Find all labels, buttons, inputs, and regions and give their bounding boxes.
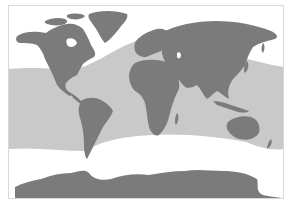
greenland — [88, 11, 127, 43]
kamchatka — [262, 43, 265, 53]
map-frame — [8, 5, 284, 199]
world-map — [9, 6, 284, 199]
antarctica — [15, 170, 284, 199]
arctic-archipelago — [45, 14, 85, 26]
